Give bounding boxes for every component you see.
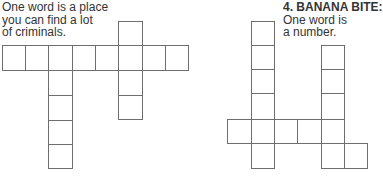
crossword-cell[interactable] xyxy=(251,69,275,94)
crossword-cell[interactable] xyxy=(251,45,275,70)
crossword-cell[interactable] xyxy=(321,143,345,169)
crossword-cell[interactable] xyxy=(321,119,345,144)
crossword-grid-right xyxy=(0,0,383,176)
crossword-cell[interactable] xyxy=(251,93,275,120)
crossword-cell[interactable] xyxy=(344,143,368,169)
crossword-cell[interactable] xyxy=(251,143,275,169)
crossword-cell[interactable] xyxy=(321,93,345,120)
crossword-cell[interactable] xyxy=(274,119,298,144)
crossword-cell[interactable] xyxy=(251,119,275,144)
crossword-cell[interactable] xyxy=(251,21,275,46)
crossword-cell[interactable] xyxy=(297,119,322,144)
crossword-cell[interactable] xyxy=(321,69,345,94)
crossword-cell[interactable] xyxy=(227,119,252,144)
crossword-cell[interactable] xyxy=(321,45,345,70)
